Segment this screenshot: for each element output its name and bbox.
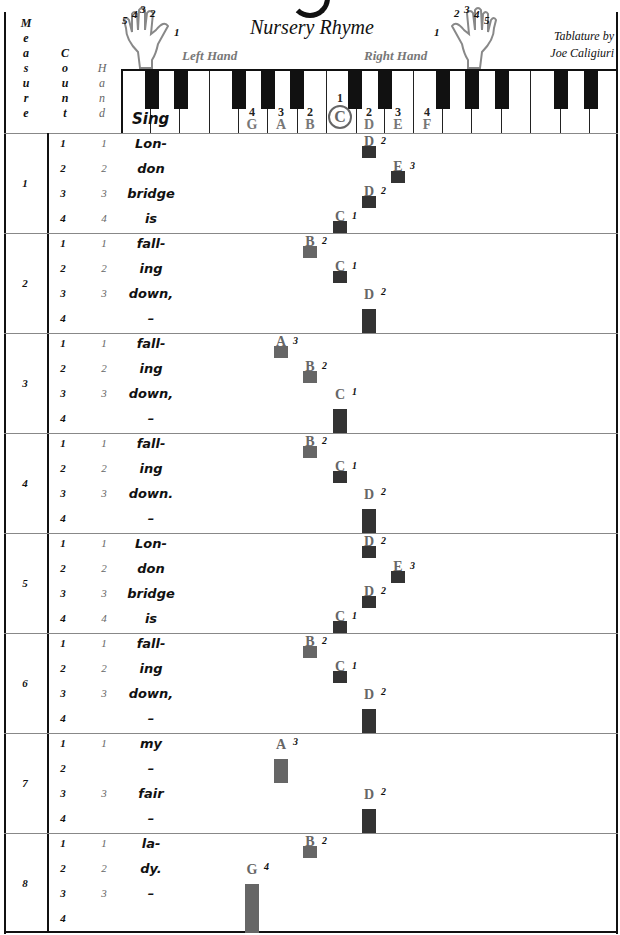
hand-count: 2 [96,862,112,874]
note-block [362,596,376,608]
note-finger: 2 [322,360,327,371]
note-finger: 1 [352,210,357,221]
beat-count: 2 [55,762,71,774]
note-finger: 2 [322,635,327,646]
hand-count: 1 [96,137,112,149]
black-key [378,71,392,109]
key-label-b: 2B [296,106,324,132]
header-divider [4,133,618,134]
note-name: G [245,863,259,877]
black-key [465,71,479,109]
note-block [391,171,405,183]
lh-finger-1: 1 [174,26,180,38]
beat-count: 1 [55,637,71,649]
lyric: ing [116,661,186,676]
hand-count: 3 [96,887,112,899]
lyric: down, [116,286,186,301]
lyric: fall- [116,236,186,251]
beat-count: 3 [55,387,71,399]
beat-count: 3 [55,687,71,699]
measure-divider [4,333,618,334]
key-label-e: 3E [384,106,412,132]
note-finger: 1 [352,386,357,397]
note-block [333,409,347,433]
rh-finger-5: 5 [484,14,490,26]
beat-count: 4 [55,712,71,724]
black-key [145,71,159,109]
header-letter: u [55,76,75,91]
sing-label: Sing [132,110,169,128]
black-key [436,71,450,109]
lyric: bridge [116,586,186,601]
lh-finger-5: 5 [122,14,128,26]
beat-count: 3 [55,187,71,199]
hand-count: 1 [96,237,112,249]
note-block [303,246,317,258]
note-letter: A [267,118,295,132]
note-block [333,221,347,233]
header-letter: e [16,106,36,121]
note-block [362,146,376,158]
lyric: don [116,161,186,176]
hand-count: 3 [96,387,112,399]
beat-count: 1 [55,237,71,249]
note-block [362,709,376,733]
beat-count: 4 [55,312,71,324]
lyric: bridge [116,186,186,201]
right-hand-icon: 1 2 3 4 5 [432,4,502,70]
lyric: – [116,311,186,326]
lyric: is [116,211,186,226]
hand-count: 1 [96,737,112,749]
header-letter: r [16,91,36,106]
lyric: ing [116,461,186,476]
note-block [274,346,288,358]
header-letter: d [92,106,112,121]
col-header-count: Count [55,46,75,121]
note-finger: 1 [352,460,357,471]
note-finger: 2 [381,286,386,297]
measure-number: 3 [5,377,45,389]
note-finger: 4 [264,861,269,872]
black-key [554,71,568,109]
note-finger: 3 [410,560,415,571]
key-label-d: 2D [355,106,383,132]
measure-number: 4 [5,477,45,489]
lyric: fall- [116,436,186,451]
beat-count: 4 [55,612,71,624]
note-block [362,309,376,333]
lyric: Lon- [116,136,186,151]
beat-count: 2 [55,562,71,574]
rh-finger-1: 1 [434,26,440,38]
lyric: fair [116,786,186,801]
note-block [333,271,347,283]
key-label-g: 4G [238,106,266,132]
beat-count: 1 [55,837,71,849]
note-finger: 2 [322,835,327,846]
note-letter: E [384,118,412,132]
page-left-border [4,12,6,934]
note-block [391,571,405,583]
beat-count: 1 [55,537,71,549]
lyric: down. [116,486,186,501]
right-hand-label: Right Hand [364,48,427,64]
lyric: down, [116,386,186,401]
lyric: – [116,711,186,726]
note-block [362,546,376,558]
beat-count: 3 [55,887,71,899]
lyric: la- [116,836,186,851]
rh-finger-2: 2 [454,7,460,19]
note-finger: 1 [352,660,357,671]
note-finger: 2 [381,686,386,697]
lh-finger-2: 2 [150,7,156,19]
header-letter: s [16,61,36,76]
note-finger: 2 [381,486,386,497]
lyric: is [116,611,186,626]
beat-count: 2 [55,662,71,674]
hand-count: 2 [96,162,112,174]
beat-count: 2 [55,362,71,374]
hand-count: 2 [96,662,112,674]
middle-c-circle-icon: C [328,105,352,129]
page-title: Nursery Rhyme [250,16,374,39]
note-finger: 2 [322,435,327,446]
note-block [362,196,376,208]
